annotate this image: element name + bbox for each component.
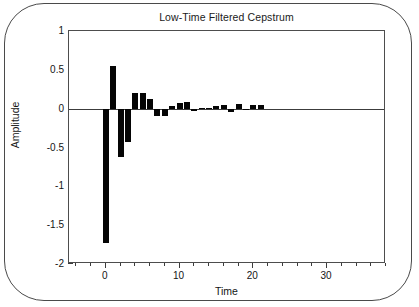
bar	[243, 109, 249, 111]
x-tick-minor	[75, 263, 76, 266]
x-tick-minor	[267, 263, 268, 266]
x-tick-minor	[356, 263, 357, 266]
bar	[250, 105, 256, 109]
y-tick-label: 0	[58, 102, 68, 113]
bar	[199, 108, 205, 109]
y-axis-label: Amplitude	[9, 80, 21, 170]
y-tick-label: -2	[55, 258, 68, 269]
chart-title: Low-Time Filtered Cepstrum	[68, 11, 385, 23]
bar	[213, 106, 219, 109]
x-tick-label: 30	[320, 270, 331, 281]
x-tick-minor	[149, 263, 150, 266]
bar	[177, 103, 183, 108]
bar	[110, 66, 116, 109]
x-tick-minor	[311, 263, 312, 266]
bar	[228, 109, 234, 112]
x-tick-minor	[120, 263, 121, 266]
x-tick-minor	[90, 263, 91, 266]
x-tick-minor	[297, 263, 298, 266]
plot-area	[68, 30, 385, 263]
bar	[147, 99, 153, 109]
x-tick-label: 0	[102, 270, 108, 281]
y-tick-label: 0.5	[50, 63, 68, 74]
x-tick-minor	[164, 263, 165, 266]
bar	[140, 93, 146, 109]
bar	[103, 109, 109, 243]
x-tick-label: 20	[247, 270, 258, 281]
x-tick-minor	[208, 263, 209, 266]
x-tick-minor	[223, 263, 224, 266]
bar	[169, 106, 175, 109]
x-tick-mark	[105, 263, 106, 268]
x-tick-mark	[179, 263, 180, 268]
bar	[118, 109, 124, 157]
x-tick-mark	[252, 263, 253, 268]
bar	[125, 109, 131, 142]
x-tick-minor	[370, 263, 371, 266]
bar	[221, 105, 227, 109]
x-axis-tick-labels: 0102030	[68, 270, 385, 284]
zero-baseline	[69, 109, 384, 110]
bar	[132, 93, 138, 109]
y-tick-label: -1	[55, 180, 68, 191]
bar	[236, 104, 242, 109]
x-tick-minor	[193, 263, 194, 266]
y-tick-label: -1.5	[47, 219, 68, 230]
y-tick-label: -0.5	[47, 141, 68, 152]
y-axis-tick-labels: 10.50-0.5-1-1.5-2	[28, 30, 68, 263]
bar	[184, 102, 190, 108]
bar	[162, 109, 168, 116]
bar	[206, 108, 212, 109]
x-tick-label: 10	[173, 270, 184, 281]
x-tick-minor	[385, 263, 386, 266]
x-tick-minor	[238, 263, 239, 266]
plot-inner	[69, 31, 384, 262]
bar	[258, 105, 264, 109]
bar	[191, 109, 197, 111]
x-tick-minor	[134, 263, 135, 266]
x-tick-mark	[326, 263, 327, 268]
figure-canvas: Low-Time Filtered Cepstrum Amplitude 10.…	[0, 0, 419, 307]
x-tick-minor	[282, 263, 283, 266]
y-tick-label: 1	[58, 25, 68, 36]
x-axis-tick-marks	[68, 263, 385, 269]
bar	[154, 109, 160, 116]
x-axis-label: Time	[68, 285, 385, 297]
x-tick-minor	[341, 263, 342, 266]
